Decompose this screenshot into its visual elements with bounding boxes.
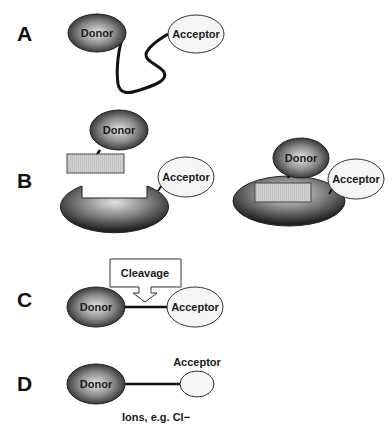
panel-d: D Donor Acceptor Ions, e.g. Cl− (17, 356, 222, 423)
binding-peptide (255, 183, 311, 202)
fret-sensor-diagram: A Donor Acceptor B Donor Acceptor Donor (0, 0, 392, 427)
donor-label: Donor (103, 124, 136, 136)
acceptor-label: Acceptor (162, 171, 210, 183)
cleavage-callout (110, 259, 181, 302)
acceptor-label: Acceptor (332, 173, 380, 185)
binding-peptide (67, 154, 124, 173)
binding-domain (61, 186, 169, 233)
acceptor-label: Acceptor (171, 301, 219, 313)
panel-b: B Donor Acceptor Donor Acceptor (17, 110, 384, 233)
ions-caption: Ions, e.g. Cl− (122, 411, 190, 423)
cleavage-label: Cleavage (121, 267, 169, 279)
panel-label-a: A (17, 22, 32, 45)
panel-label-b: B (17, 169, 32, 192)
panel-b-bound: Donor Acceptor (233, 138, 384, 226)
donor-label: Donor (80, 378, 113, 390)
panel-a: A Donor Acceptor (17, 14, 224, 92)
donor-label: Donor (81, 27, 114, 39)
acceptor-label: Acceptor (173, 356, 221, 368)
panel-label-c: C (17, 288, 32, 311)
acceptor-node (180, 371, 214, 397)
panel-c: C Cleavage Donor Acceptor (17, 259, 223, 327)
panel-b-unbound: Donor Acceptor (61, 110, 215, 233)
panel-label-d: D (17, 372, 32, 395)
donor-label: Donor (80, 301, 113, 313)
acceptor-label: Acceptor (172, 28, 220, 40)
donor-label: Donor (285, 152, 318, 164)
flexible-linker (117, 34, 168, 92)
